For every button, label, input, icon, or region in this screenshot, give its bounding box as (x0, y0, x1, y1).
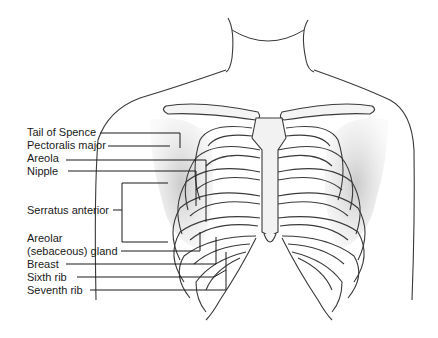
anatomy-diagram: Tail of Spence Pectoralis major Areola N… (0, 0, 438, 338)
label-pectoralis-major: Pectoralis major (27, 139, 106, 151)
label-tail-of-spence: Tail of Spence (27, 126, 96, 138)
label-areola: Areola (27, 152, 59, 164)
label-sixth-rib: Sixth rib (27, 271, 67, 283)
label-areolar-gland-line1: Areolar (27, 232, 62, 244)
neck-outline (226, 18, 314, 72)
label-areolar-gland-line2: (sebaceous) gland (27, 245, 118, 257)
label-nipple: Nipple (27, 165, 58, 177)
label-seventh-rib: Seventh rib (27, 284, 83, 296)
label-serratus-anterior: Serratus anterior (27, 204, 109, 216)
label-breast: Breast (27, 258, 59, 270)
